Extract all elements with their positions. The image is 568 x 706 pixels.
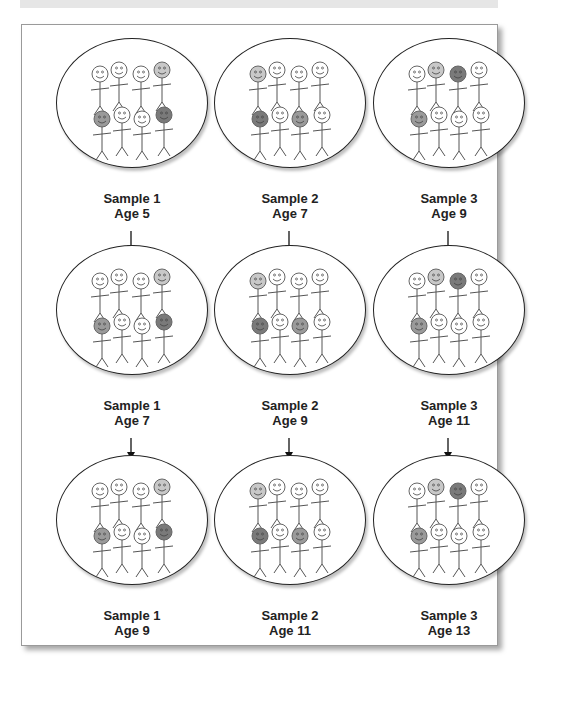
- stick-figure: [449, 66, 467, 115]
- stick-figure: [470, 479, 488, 528]
- sample-label: Sample 2Age 7: [214, 191, 366, 221]
- stick-figures-icon: [57, 246, 207, 374]
- stick-figure: [430, 314, 448, 363]
- sample-circle: [56, 245, 208, 375]
- stick-figure: [311, 62, 329, 111]
- stick-figure: [472, 314, 490, 363]
- sample-circle: [373, 38, 525, 168]
- stick-figures-icon: [215, 246, 365, 374]
- stick-figure: [132, 483, 150, 532]
- sample-name: Sample 3: [373, 608, 525, 623]
- sample-circle: [56, 455, 208, 585]
- stick-figure: [155, 524, 173, 573]
- sample-name: Sample 2: [214, 191, 366, 206]
- age-label: Age 9: [214, 413, 366, 428]
- age-label: Age 9: [373, 206, 525, 221]
- stick-figure: [91, 483, 109, 532]
- stick-figure: [291, 111, 309, 160]
- stick-figure: [93, 528, 111, 577]
- sample-label: Sample 1Age 9: [56, 608, 208, 638]
- age-label: Age 11: [373, 413, 525, 428]
- stick-figure: [450, 528, 468, 577]
- stick-figure: [291, 528, 309, 577]
- stick-figure: [408, 273, 426, 322]
- sample-circle: [373, 455, 525, 585]
- stick-figure: [430, 107, 448, 156]
- sample-label: Sample 2Age 11: [214, 608, 366, 638]
- stick-figure: [410, 528, 428, 577]
- stick-figure: [133, 528, 151, 577]
- sample-label: Sample 3Age 11: [373, 398, 525, 428]
- stick-figure: [450, 318, 468, 367]
- sample-label: Sample 3Age 9: [373, 191, 525, 221]
- age-label: Age 13: [373, 623, 525, 638]
- stick-figure: [132, 273, 150, 322]
- age-label: Age 7: [56, 413, 208, 428]
- stick-figure: [110, 62, 128, 111]
- stick-figure: [291, 318, 309, 367]
- stick-figure: [313, 107, 331, 156]
- age-label: Age 11: [214, 623, 366, 638]
- stick-figure: [470, 62, 488, 111]
- sample-label: Sample 1Age 5: [56, 191, 208, 221]
- stick-figure: [153, 479, 171, 528]
- stick-figures-icon: [374, 246, 524, 374]
- stick-figure: [91, 273, 109, 322]
- sample-circle: [214, 245, 366, 375]
- stick-figures-icon: [215, 39, 365, 167]
- age-label: Age 7: [214, 206, 366, 221]
- stick-figure: [449, 483, 467, 532]
- sample-circle: [373, 245, 525, 375]
- stick-figure: [311, 479, 329, 528]
- stick-figure: [249, 66, 267, 115]
- sample-circle: [214, 455, 366, 585]
- stick-figure: [113, 524, 131, 573]
- sample-label: Sample 2Age 9: [214, 398, 366, 428]
- sample-name: Sample 1: [56, 608, 208, 623]
- stick-figure: [93, 111, 111, 160]
- stick-figure: [133, 111, 151, 160]
- stick-figure: [268, 62, 286, 111]
- stick-figure: [271, 107, 289, 156]
- stick-figures-icon: [57, 39, 207, 167]
- stick-figures-icon: [215, 456, 365, 584]
- stick-figure: [155, 314, 173, 363]
- stick-figures-icon: [57, 456, 207, 584]
- stick-figure: [472, 107, 490, 156]
- sample-label: Sample 3Age 13: [373, 608, 525, 638]
- stick-figure: [290, 66, 308, 115]
- stick-figure: [110, 269, 128, 318]
- stick-figure: [427, 62, 445, 111]
- stick-figure: [427, 269, 445, 318]
- stick-figure: [290, 483, 308, 532]
- stick-figure: [313, 524, 331, 573]
- stick-figure: [408, 66, 426, 115]
- sample-name: Sample 2: [214, 398, 366, 413]
- age-label: Age 9: [56, 623, 208, 638]
- stick-figure: [268, 269, 286, 318]
- stick-figure: [408, 483, 426, 532]
- stick-figure: [470, 269, 488, 318]
- sample-name: Sample 1: [56, 191, 208, 206]
- stick-figure: [133, 318, 151, 367]
- sample-name: Sample 2: [214, 608, 366, 623]
- stick-figure: [449, 273, 467, 322]
- age-label: Age 5: [56, 206, 208, 221]
- stick-figure: [251, 318, 269, 367]
- stick-figure: [430, 524, 448, 573]
- stick-figure: [153, 62, 171, 111]
- stick-figure: [113, 314, 131, 363]
- stick-figures-icon: [374, 39, 524, 167]
- stick-figure: [113, 107, 131, 156]
- stick-figure: [271, 314, 289, 363]
- sample-name: Sample 3: [373, 191, 525, 206]
- sample-circle: [56, 38, 208, 168]
- stick-figure: [153, 269, 171, 318]
- stick-figure: [472, 524, 490, 573]
- stick-figure: [91, 66, 109, 115]
- stick-figure: [450, 111, 468, 160]
- stick-figure: [410, 111, 428, 160]
- stick-figure: [290, 273, 308, 322]
- stick-figure: [249, 273, 267, 322]
- stick-figure: [271, 524, 289, 573]
